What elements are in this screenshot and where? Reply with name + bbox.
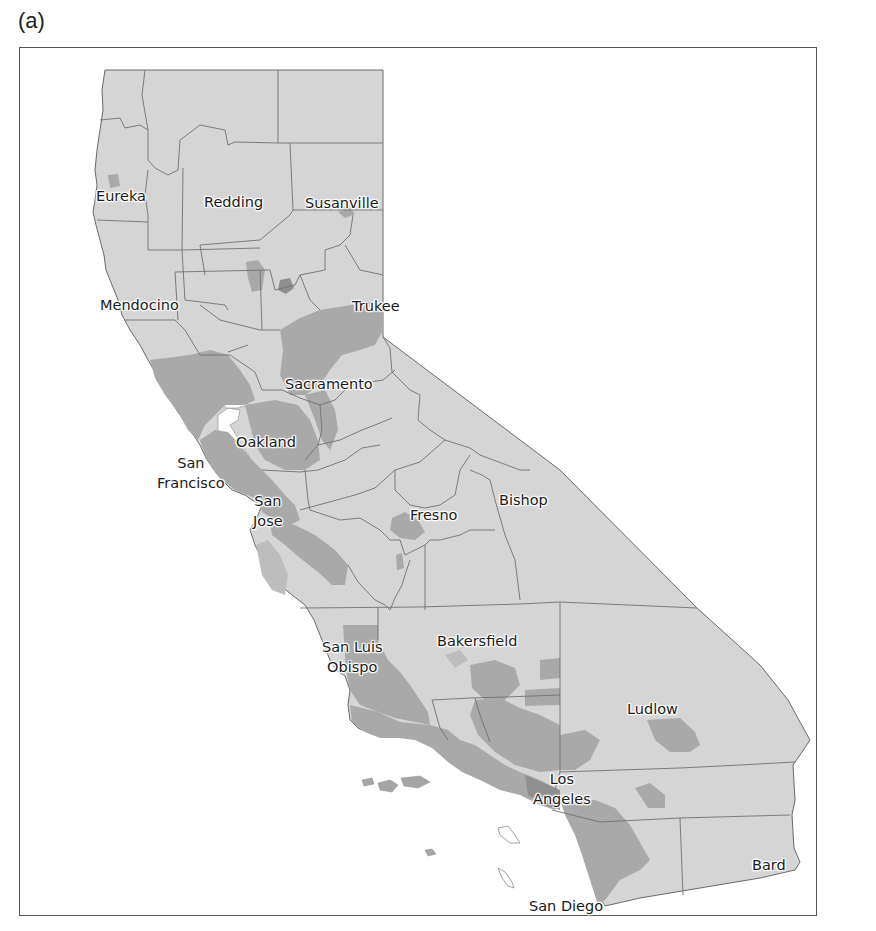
city-label-san-diego: San Diego: [529, 896, 603, 916]
city-label-san-luis-obispo: San Luis Obispo: [322, 637, 383, 677]
city-label-susanville: Susanville: [305, 193, 379, 213]
city-label-line: Francisco: [157, 473, 225, 493]
city-label-trukee: Trukee: [352, 296, 400, 316]
city-label-bakersfield: Bakersfield: [437, 631, 517, 651]
city-label-redding: Redding: [204, 192, 263, 212]
city-label-line: Los: [550, 769, 574, 789]
city-label-line: San: [177, 453, 204, 473]
city-label-line: San Luis: [322, 637, 383, 657]
city-label-oakland: Oakland: [236, 432, 296, 452]
city-label-san-jose: San Jose: [253, 491, 283, 531]
city-label-line: Angeles: [533, 789, 591, 809]
city-label-los-angeles: Los Angeles: [533, 769, 591, 809]
city-label-bishop: Bishop: [499, 490, 548, 510]
city-label-sacramento: Sacramento: [285, 374, 373, 394]
channel-islands: [362, 776, 520, 888]
city-label-line: Jose: [253, 511, 283, 531]
city-label-line: Obispo: [327, 657, 377, 677]
city-label-eureka: Eureka: [96, 186, 146, 206]
california-map: [0, 0, 876, 931]
city-label-line: San: [254, 491, 281, 511]
city-label-bard: Bard: [752, 855, 786, 875]
city-label-mendocino: Mendocino: [100, 295, 179, 315]
city-label-ludlow: Ludlow: [627, 699, 678, 719]
city-label-fresno: Fresno: [410, 505, 457, 525]
city-label-san-francisco: San Francisco: [157, 453, 225, 493]
